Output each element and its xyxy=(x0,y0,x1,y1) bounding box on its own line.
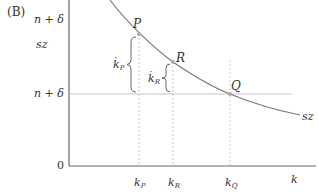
y-label-mid: n + δ xyxy=(34,88,64,99)
panel-label: (B) xyxy=(7,6,25,18)
point-R xyxy=(171,60,175,64)
tick-kP-base: k xyxy=(134,176,141,189)
y-label-origin: 0 xyxy=(57,160,64,171)
point-label-Q: Q xyxy=(231,80,241,92)
point-label-P: P xyxy=(133,18,141,30)
brace-kP xyxy=(127,37,136,92)
tick-label-kR: kR xyxy=(168,177,180,190)
tick-kQ-sub: Q xyxy=(232,182,238,190)
y-label-top: n + δ xyxy=(34,14,64,25)
brace-label-kP: k̇P xyxy=(113,59,124,72)
brace-label-kP-base: k̇ xyxy=(113,58,120,71)
brace-label-kR-sub: R xyxy=(155,78,160,86)
brace-label-kR-base: k̇ xyxy=(148,72,155,85)
x-axis-label: k xyxy=(291,174,298,185)
brace-label-kR: k̇R xyxy=(148,73,160,86)
brace-kR xyxy=(162,64,170,92)
tick-kR-base: k xyxy=(168,176,175,189)
brace-label-kP-sub: P xyxy=(120,64,125,72)
point-P xyxy=(137,32,141,36)
curve-label-sz: sz xyxy=(302,111,313,122)
tick-label-kP: kP xyxy=(134,177,145,190)
tick-kP-sub: P xyxy=(141,182,146,190)
point-label-R: R xyxy=(176,52,185,64)
tick-kR-sub: R xyxy=(175,182,180,190)
tick-label-kQ: kQ xyxy=(225,177,237,190)
y-label-sz: sz xyxy=(36,39,47,50)
tick-kQ-base: k xyxy=(225,176,232,189)
